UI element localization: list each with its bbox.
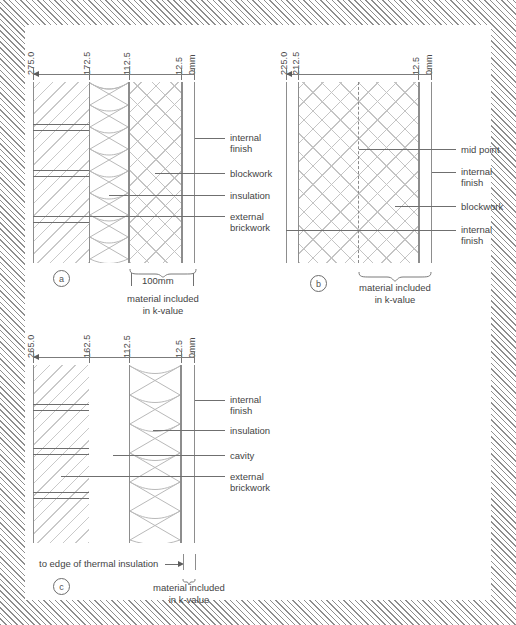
fig-a-brick-course — [33, 176, 90, 177]
fig-c-internal-finish-inner — [194, 365, 195, 543]
fig-a-brick-course — [33, 170, 90, 171]
text: internal — [230, 132, 261, 143]
fig-a-insulation — [89, 82, 129, 263]
text: external — [230, 211, 264, 222]
figure-b: 225.0 212.5 12.5 0mm — [275, 25, 491, 295]
figure-a: 275.0 172.5 112.5 12.5 0mm — [25, 25, 275, 295]
fig-c-brick-course — [33, 454, 90, 455]
fig-b-kvalue-caption: material included in k-value — [353, 282, 437, 305]
fig-a-label-insulation: insulation — [230, 190, 270, 201]
fig-a-brick-course — [33, 124, 90, 125]
figure-c: 265.0 162.5 112.5 12.5 0mm — [25, 310, 305, 600]
fig-c-dim-0: 0mm — [187, 337, 197, 358]
fig-b-dim-212: 212.5 — [291, 51, 301, 75]
fig-c-brick-course — [33, 498, 90, 499]
text: internal — [461, 166, 492, 177]
fig-c-leader-insulation — [153, 430, 225, 431]
fig-a-brick-course — [33, 130, 90, 131]
drawing-canvas: 275.0 172.5 112.5 12.5 0mm — [25, 25, 491, 600]
fig-c-insulation — [129, 365, 181, 543]
fig-c-label-cavity: cavity — [230, 450, 254, 461]
fig-b-blockwork — [298, 82, 420, 263]
fig-c-brick-course — [33, 448, 90, 449]
fig-c-internal-finish-outer — [181, 365, 182, 543]
text: material included — [359, 282, 431, 293]
brace-shape — [129, 268, 197, 278]
fig-c-label-external-brickwork: external brickwork — [230, 471, 270, 493]
fig-c-letter: c — [53, 578, 70, 595]
fig-c-kvalue-caption: material included in k-value — [147, 582, 231, 605]
fig-c-label-insulation: insulation — [230, 425, 270, 436]
fig-a-label-external-brickwork: external brickwork — [230, 211, 270, 233]
fig-b-label-internal-finish-top: internal finish — [461, 166, 492, 188]
insulation-pattern — [129, 365, 181, 543]
fig-c-edge-note-leader — [165, 564, 179, 565]
brace-shape — [358, 271, 432, 282]
fig-a-dim-112: 112.5 — [122, 52, 132, 75]
fig-b-dim-12: 12.5 — [411, 57, 421, 75]
fig-a-letter: a — [53, 270, 70, 287]
fig-c-dim-12: 12.5 — [174, 340, 184, 358]
fig-c-edge-marker-left — [183, 554, 184, 570]
text: finish — [461, 235, 483, 246]
fig-a-dimension-line — [33, 74, 195, 75]
text: external — [230, 471, 264, 482]
fig-a-leader-insulation — [109, 195, 225, 196]
fig-b-internal-finish-outer-left — [286, 82, 287, 263]
text: finish — [230, 405, 252, 416]
fig-c-leader-cavity — [113, 455, 225, 456]
insulation-pattern — [89, 82, 129, 263]
fig-a-dim-172: 172.5 — [82, 51, 92, 75]
fig-c-dim-162: 162.5 — [82, 334, 92, 358]
text: finish — [461, 177, 483, 188]
fig-b-internal-finish-outer-right — [418, 82, 419, 263]
fig-a-label-blockwork: blockwork — [230, 168, 272, 179]
fig-c-leader-external-brickwork — [61, 476, 225, 477]
text: brickwork — [230, 222, 270, 233]
fig-c-dim-112: 112.5 — [122, 335, 132, 358]
text: internal — [230, 394, 261, 405]
fig-c-brick-course — [33, 492, 90, 493]
text: material included — [127, 293, 199, 304]
fig-b-label-mid-point: mid point — [461, 144, 500, 155]
fig-c-edge-marker-right — [195, 554, 196, 570]
fig-a-leader-external-brickwork — [61, 216, 225, 217]
fig-a-brick-course — [33, 222, 90, 223]
fig-a-dim-0: 0mm — [187, 54, 197, 75]
fig-b-letter: b — [310, 275, 327, 292]
fig-a-label-internal-finish: internal finish — [230, 132, 261, 154]
fig-a-leader-internal-finish — [195, 138, 225, 139]
fig-b-leader-blockwork — [395, 206, 456, 207]
text: in k-value — [169, 594, 210, 605]
text: finish — [230, 143, 252, 154]
fig-c-leader-internal-finish — [195, 400, 225, 401]
fig-b-dimension-line — [286, 74, 432, 75]
fig-c-dimension-line — [33, 357, 195, 358]
text: material included — [153, 582, 225, 593]
fig-c-dimension-arrow — [33, 354, 39, 360]
fig-c-edge-note: to edge of thermal insulation — [39, 558, 158, 569]
fig-c-cavity — [89, 365, 129, 543]
fig-c-label-internal-finish: internal finish — [230, 394, 261, 416]
fig-b-dim-0: 0mm — [424, 54, 434, 75]
fig-b-leader-internal-finish-bottom — [286, 230, 456, 231]
fig-b-leader-internal-finish-top — [432, 172, 456, 173]
page-background: 275.0 172.5 112.5 12.5 0mm — [0, 0, 516, 625]
text: internal — [461, 224, 492, 235]
text: in k-value — [375, 294, 416, 305]
fig-b-mid-point-line — [358, 82, 359, 263]
fig-a-kvalue-brace — [129, 264, 197, 282]
fig-b-leader-mid-point — [359, 149, 456, 150]
text: brickwork — [230, 482, 270, 493]
fig-a-dimension-arrow — [33, 71, 39, 77]
fig-b-dimension-arrow — [286, 71, 292, 77]
fig-a-dim-12: 12.5 — [174, 57, 184, 75]
fig-a-external-brickwork — [33, 82, 90, 263]
fig-b-label-blockwork: blockwork — [461, 201, 503, 212]
fig-c-brick-course — [33, 410, 90, 411]
fig-a-leader-blockwork — [155, 173, 225, 174]
fig-b-label-internal-finish-bottom: internal finish — [461, 224, 492, 246]
fig-c-brick-course — [33, 404, 90, 405]
